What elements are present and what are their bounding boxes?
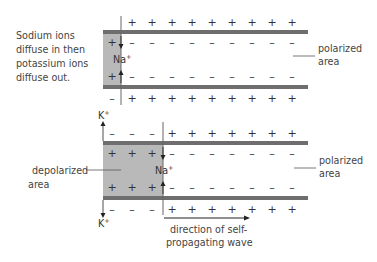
outside-charge-sign: + [267, 127, 276, 140]
bottom-polarized-label: polarized area [319, 155, 366, 179]
outside-charge-sign: – [149, 127, 155, 140]
outside-charge-sign: + [127, 92, 136, 105]
outside-charge-sign: + [267, 16, 276, 29]
arrow-right-icon [244, 216, 250, 221]
top-polarized-label: polarized area [318, 43, 365, 67]
inside-charge-sign: – [229, 147, 235, 160]
outside-charge-sign: – [129, 203, 135, 216]
inside-charge-sign: – [169, 36, 175, 49]
inside-charge-sign: + [107, 70, 116, 83]
bottom-upper-membrane [103, 141, 308, 145]
outside-charge-sign: – [109, 92, 115, 105]
outside-charge-sign: + [227, 127, 236, 140]
inside-charge-sign: – [289, 147, 295, 160]
outside-charge-sign: + [247, 127, 256, 140]
inside-charge-sign: + [107, 36, 116, 49]
inside-charge-sign: – [269, 147, 275, 160]
arrow-up-icon [101, 121, 106, 126]
inside-charge-sign: – [249, 36, 255, 49]
top-axon-diagram: Na+ ++++++++++–––––––––+––––––––––++++++… [16, 16, 365, 105]
outside-charge-sign: + [287, 16, 296, 29]
inside-charge-sign: – [189, 70, 195, 83]
inside-charge-sign: – [169, 70, 175, 83]
inside-charge-sign: – [129, 70, 135, 83]
inside-charge-sign: + [147, 181, 156, 194]
inside-charge-sign: – [289, 181, 295, 194]
inside-charge-sign: – [249, 70, 255, 83]
inside-charge-sign: + [107, 147, 116, 160]
outside-charge-sign: + [187, 203, 196, 216]
inside-charge-sign: – [149, 36, 155, 49]
inside-charge-sign: – [269, 181, 275, 194]
bottom-na-label: Na+ [155, 164, 174, 176]
top-na-label: Na+ [113, 53, 132, 65]
outside-charge-sign: + [127, 16, 136, 29]
outside-charge-sign: + [227, 16, 236, 29]
inside-charge-sign: – [229, 70, 235, 83]
bottom-axon-diagram: K+ K+ Na+ –––++++++++++–––––––+++–––––––… [28, 109, 366, 248]
top-lower-membrane [103, 85, 308, 89]
outside-charge-sign: – [109, 127, 115, 140]
outside-charge-sign: + [207, 16, 216, 29]
inside-charge-sign: – [129, 36, 135, 49]
inside-charge-sign: – [289, 70, 295, 83]
outside-charge-sign: + [247, 203, 256, 216]
inside-charge-sign: – [289, 36, 295, 49]
outside-charge-sign: + [207, 92, 216, 105]
inside-charge-sign: – [269, 36, 275, 49]
inside-charge-sign: – [209, 70, 215, 83]
outside-charge-sign: + [287, 203, 296, 216]
outside-charge-sign: + [227, 92, 236, 105]
bottom-lower-membrane [103, 196, 308, 200]
outside-charge-sign: + [167, 127, 176, 140]
outside-charge-sign: + [167, 16, 176, 29]
inside-charge-sign: – [229, 36, 235, 49]
inside-charge-sign: – [249, 181, 255, 194]
outside-charge-sign: – [129, 127, 135, 140]
outside-charge-sign: + [247, 92, 256, 105]
inside-charge-sign: – [149, 70, 155, 83]
inside-charge-sign: – [269, 70, 275, 83]
inside-charge-sign: – [169, 181, 175, 194]
outside-charge-sign: + [147, 92, 156, 105]
outside-charge-sign: + [207, 203, 216, 216]
inside-charge-sign: – [189, 36, 195, 49]
nerve-impulse-diagram: Na+ ++++++++++–––––––––+––––––––––++++++… [0, 0, 377, 262]
inside-charge-sign: + [127, 147, 136, 160]
k-top-label: K+ [98, 109, 110, 121]
inside-charge-sign: – [169, 147, 175, 160]
outside-charge-sign: + [227, 203, 236, 216]
top-charge-signs: ++++++++++–––––––––+––––––––––+++++++++ [107, 16, 296, 105]
outside-charge-sign: + [287, 127, 296, 140]
inside-charge-sign: – [209, 36, 215, 49]
inside-charge-sign: – [249, 147, 255, 160]
inside-charge-sign: – [189, 181, 195, 194]
outside-charge-sign: – [149, 203, 155, 216]
k-bottom-label: K+ [98, 217, 110, 229]
inside-charge-sign: + [147, 147, 156, 160]
outside-charge-sign: + [287, 92, 296, 105]
inside-charge-sign: – [189, 147, 195, 160]
top-upper-membrane [103, 30, 308, 34]
outside-charge-sign: + [247, 16, 256, 29]
outside-charge-sign: + [167, 203, 176, 216]
depolarized-label: depolarized area [28, 165, 91, 190]
inside-charge-sign: – [209, 181, 215, 194]
inside-charge-sign: – [229, 181, 235, 194]
outside-charge-sign: + [167, 92, 176, 105]
outside-charge-sign: + [187, 92, 196, 105]
outside-charge-sign: + [147, 16, 156, 29]
outside-charge-sign: + [187, 16, 196, 29]
outside-charge-sign: + [267, 92, 276, 105]
inside-charge-sign: – [209, 147, 215, 160]
wave-direction-label: direction of self- propagating wave [166, 224, 253, 248]
outside-charge-sign: + [267, 203, 276, 216]
outside-charge-sign: + [187, 127, 196, 140]
outside-charge-sign: – [109, 203, 115, 216]
outside-charge-sign: + [207, 127, 216, 140]
inside-charge-sign: + [107, 181, 116, 194]
top-caption: Sodium ions diffuse in then potassium io… [16, 30, 91, 83]
inside-charge-sign: + [127, 181, 136, 194]
